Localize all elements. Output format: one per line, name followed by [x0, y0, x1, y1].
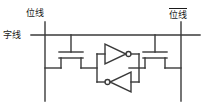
bitline-left-label: 位线 — [26, 8, 44, 19]
bitline-right-label: 位线 — [169, 8, 187, 21]
sram-cell-diagram: 位线 字线 位线 — [0, 0, 208, 109]
wordline-label: 字线 — [3, 30, 21, 41]
inverter-bottom-triangle — [110, 72, 131, 92]
inverter-top-triangle — [105, 44, 126, 64]
bitline-right-label-wrapper: 位线 — [169, 8, 187, 21]
